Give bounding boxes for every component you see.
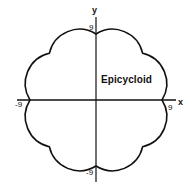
y-axis-label: y	[92, 6, 97, 15]
tick-right: 9	[168, 104, 172, 112]
tick-bottom: -9	[86, 169, 93, 177]
x-axis-label: x	[178, 98, 183, 107]
tick-top: 9	[89, 24, 93, 32]
tick-left: -9	[15, 101, 22, 109]
diagram-canvas	[0, 0, 195, 195]
epicycloid-diagram: y x 9 -9 -9 9 Epicycloid	[0, 0, 195, 195]
diagram-title: Epicycloid	[101, 75, 152, 85]
